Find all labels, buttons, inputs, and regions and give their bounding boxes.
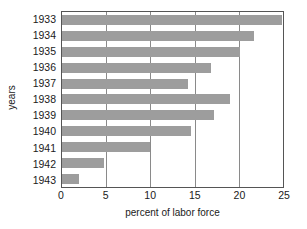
x-axis-title: percent of labor force bbox=[61, 207, 284, 218]
x-tick-label: 20 bbox=[234, 190, 246, 201]
bar bbox=[62, 79, 188, 89]
bar-row bbox=[62, 171, 283, 187]
y-tick-label: 1934 bbox=[20, 27, 60, 43]
x-tick-label: 10 bbox=[144, 190, 156, 201]
y-tick-label: 1940 bbox=[20, 124, 60, 140]
bar bbox=[62, 174, 79, 184]
bar-row bbox=[62, 60, 283, 76]
y-tick-label: 1936 bbox=[20, 59, 60, 75]
x-axis-tick-labels: 0510152025 bbox=[61, 190, 284, 204]
bar bbox=[62, 142, 150, 152]
bar bbox=[62, 94, 230, 104]
x-tick-label: 25 bbox=[278, 190, 290, 201]
bar-row bbox=[62, 123, 283, 139]
bar-chart: years 1933 1934 1935 1936 1937 1938 1939… bbox=[0, 0, 307, 229]
bar-row bbox=[62, 44, 283, 60]
bar bbox=[62, 158, 104, 168]
plot-area bbox=[61, 11, 284, 188]
y-tick-label: 1935 bbox=[20, 43, 60, 59]
y-axis-title: years bbox=[0, 0, 22, 195]
y-tick-label: 1937 bbox=[20, 75, 60, 91]
y-tick-label: 1941 bbox=[20, 140, 60, 156]
y-axis-title-text: years bbox=[6, 85, 17, 109]
bar bbox=[62, 15, 282, 25]
x-tick-label: 15 bbox=[189, 190, 201, 201]
bar bbox=[62, 63, 211, 73]
y-tick-label: 1933 bbox=[20, 11, 60, 27]
bar-row bbox=[62, 107, 283, 123]
y-tick-label: 1942 bbox=[20, 156, 60, 172]
y-axis-tick-labels: 1933 1934 1935 1936 1937 1938 1939 1940 … bbox=[20, 11, 60, 188]
bar-row bbox=[62, 155, 283, 171]
y-tick-label: 1943 bbox=[20, 172, 60, 188]
bar bbox=[62, 110, 214, 120]
bar-row bbox=[62, 139, 283, 155]
bar-series bbox=[62, 12, 283, 187]
bar bbox=[62, 31, 254, 41]
x-tick-label: 5 bbox=[103, 190, 109, 201]
y-tick-label: 1939 bbox=[20, 108, 60, 124]
bar-row bbox=[62, 12, 283, 28]
x-tick-label: 0 bbox=[58, 190, 64, 201]
bar-row bbox=[62, 76, 283, 92]
bar-row bbox=[62, 28, 283, 44]
bar bbox=[62, 47, 240, 57]
bar bbox=[62, 126, 191, 136]
y-tick-label: 1938 bbox=[20, 91, 60, 107]
bar-row bbox=[62, 92, 283, 108]
